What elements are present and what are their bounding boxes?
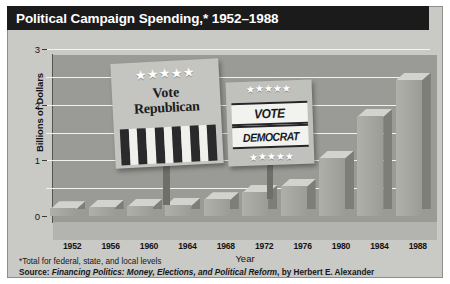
x-tick-label: 1972 [255, 241, 273, 251]
y-axis-line [52, 54, 53, 223]
bar-front-face [127, 206, 153, 216]
chart-panel: 0123 Billions of Dollars ★★★★★ Vote Repu… [7, 6, 443, 278]
title-banner: Political Campaign Spending,* 1952–1988 [7, 6, 429, 30]
republican-sign-text: Vote Republican [112, 82, 221, 118]
x-tick-label: 1964 [178, 241, 196, 251]
source-prefix: Source: [19, 268, 52, 277]
bar [204, 192, 239, 216]
bar [396, 73, 431, 216]
vote-democrat-sign: ★★★★★ VOTE DEMOCRAT ★★★★★ [227, 81, 313, 165]
bar-front-face [204, 199, 230, 216]
republican-stripes [120, 124, 218, 165]
x-tick-label: 1956 [101, 241, 119, 251]
bar [89, 200, 124, 216]
bar-front-face [165, 205, 191, 216]
source-title: Financing Politics: Money, Elections, an… [52, 268, 277, 277]
x-tick-label: 1960 [140, 241, 158, 251]
bar-front-face [242, 192, 268, 216]
democrat-band-vote: VOTE [231, 101, 308, 127]
source-suffix: , by Herbert E. Alexander [277, 268, 374, 277]
bar [357, 109, 392, 216]
gridline [46, 77, 430, 78]
y-tick-label: 0 [16, 211, 40, 222]
democrat-band-democrat: DEMOCRAT [232, 124, 309, 150]
democrat-sign-board: ★★★★★ VOTE DEMOCRAT ★★★★★ [226, 80, 315, 167]
republican-sign-board: ★★★★★ Vote Republican [110, 58, 223, 169]
gridline [46, 49, 430, 50]
bar-front-face [281, 186, 307, 216]
x-tick-label: 1968 [217, 241, 235, 251]
bar-front-face [396, 80, 422, 216]
democrat-stars-bottom: ★★★★★ [228, 150, 314, 163]
republican-stars: ★★★★★ [111, 64, 220, 83]
democrat-stars-top: ★★★★★ [226, 83, 312, 96]
x-tick-label: 1980 [332, 241, 350, 251]
x-tick-label: 1952 [63, 241, 81, 251]
bar-front-face [357, 116, 383, 216]
y-axis-title: Billions of Dollars [34, 43, 45, 183]
bar-side-face [345, 151, 354, 209]
x-tick-label: 1976 [293, 241, 311, 251]
bar-side-face [422, 73, 431, 209]
democrat-line1: VOTE [254, 105, 285, 121]
democrat-line2: DEMOCRAT [242, 130, 298, 144]
vote-republican-sign: ★★★★★ Vote Republican [113, 61, 221, 166]
y-tick-mark [42, 216, 47, 217]
bar-front-face [50, 208, 76, 216]
footnote-source: Source: Financing Politics: Money, Elect… [19, 268, 439, 278]
bar-front-face [319, 158, 345, 216]
plot-floor [53, 222, 437, 240]
bar [319, 151, 354, 216]
x-tick-label: 1988 [409, 241, 427, 251]
bar [50, 201, 85, 216]
x-tick-label: 1984 [370, 241, 388, 251]
bar-front-face [89, 207, 115, 216]
footnote-total: *Total for federal, state, and local lev… [19, 257, 439, 267]
bar [165, 198, 200, 216]
bar [281, 179, 316, 216]
bar-side-face [383, 109, 392, 209]
page-title: Political Campaign Spending,* 1952–1988 [7, 11, 278, 26]
bar [127, 199, 162, 216]
